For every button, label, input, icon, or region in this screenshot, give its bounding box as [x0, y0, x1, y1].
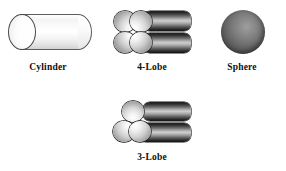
three-lobe-lobe-bottom-right	[129, 121, 151, 142]
label-sphere: Sphere	[196, 62, 286, 72]
four-lobe-lobe-bottom-right	[130, 32, 152, 53]
label-cylinder: Cylinder	[0, 62, 96, 72]
three-lobe-body-bar-top	[143, 102, 191, 121]
shape-four-lobe	[113, 10, 191, 54]
shape-sphere	[221, 10, 265, 54]
four-lobe-lobe-top-right	[130, 11, 152, 32]
catalyst-shapes-figure: Cylinder 4-Lobe Sphere 3-Lobe	[0, 0, 286, 171]
three-lobe-lobe-top	[122, 101, 144, 122]
sphere-body	[221, 10, 265, 54]
shape-cylinder	[8, 14, 82, 50]
label-four-lobe: 4-Lobe	[104, 62, 200, 72]
label-three-lobe: 3-Lobe	[104, 152, 200, 162]
cylinder-left-end-cap	[8, 14, 36, 50]
shape-three-lobe	[113, 101, 191, 145]
